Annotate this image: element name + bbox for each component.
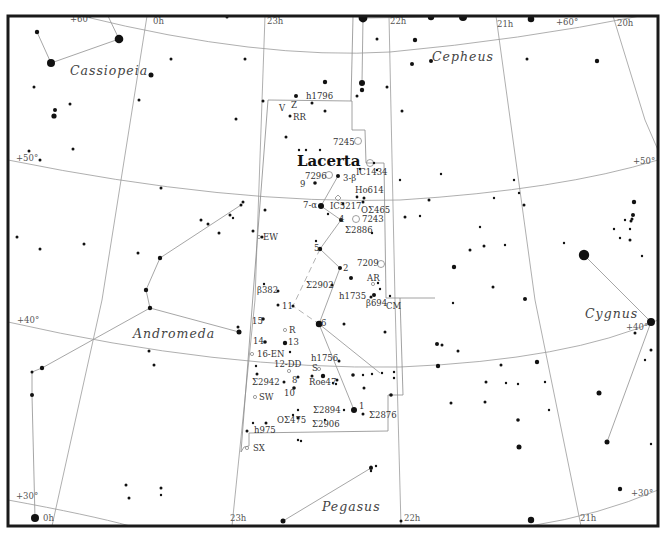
object-label: V	[278, 103, 286, 113]
star-marker	[484, 401, 487, 404]
star-marker	[613, 228, 615, 230]
star-marker	[51, 113, 56, 118]
star-marker	[544, 381, 546, 383]
star-marker	[351, 407, 357, 413]
star-marker	[505, 382, 507, 384]
star-marker	[338, 266, 342, 270]
star-marker	[650, 443, 652, 445]
object-label: Ho614	[355, 185, 384, 195]
star-marker	[632, 200, 636, 204]
constellation-name: Andromeda	[132, 326, 215, 341]
star-marker	[318, 203, 324, 209]
star-marker	[235, 118, 238, 121]
star-chart: h1796VZRR7245IC143472963-β9Ho6147-αIC521…	[0, 0, 666, 535]
dec-label: +30°	[16, 491, 38, 501]
star-marker	[35, 30, 39, 34]
star-marker	[207, 223, 210, 226]
star-marker	[469, 249, 472, 252]
object-label: 6	[321, 318, 326, 328]
dec-label: +40°	[626, 322, 648, 332]
object-label: 10	[284, 388, 295, 398]
star-marker	[305, 149, 307, 151]
star-marker	[404, 216, 407, 219]
star-marker	[242, 201, 245, 204]
star-marker	[39, 159, 42, 162]
star-marker	[363, 197, 366, 200]
dec-label: +50°	[16, 153, 38, 163]
star-marker	[252, 422, 254, 424]
star-marker	[440, 173, 442, 175]
star-marker	[362, 413, 365, 416]
star-marker	[630, 220, 633, 223]
object-label: h1735	[339, 291, 366, 301]
star-marker	[450, 402, 453, 405]
star-marker	[579, 250, 589, 260]
star-marker	[349, 276, 353, 280]
ra-label: 21h	[497, 19, 514, 29]
star-marker	[158, 256, 162, 260]
star-marker	[319, 149, 321, 151]
object-label: Roe47	[309, 377, 336, 387]
star-marker	[435, 342, 439, 346]
star-marker	[362, 374, 364, 376]
object-label: 4	[339, 214, 344, 224]
star-marker	[504, 244, 506, 246]
star-marker	[237, 330, 242, 335]
star-marker	[160, 187, 163, 190]
star-marker	[605, 440, 610, 445]
star-marker	[315, 240, 317, 242]
star-marker	[281, 519, 286, 524]
star-marker	[479, 226, 481, 228]
object-label: 5	[314, 243, 319, 253]
constellation-name: Cygnus	[585, 306, 638, 321]
star-marker	[381, 372, 383, 374]
star-marker	[452, 265, 456, 269]
star-marker	[641, 255, 643, 257]
star-marker	[528, 517, 534, 523]
object-label: SX	[253, 443, 266, 453]
star-marker	[517, 445, 522, 450]
object-label: CM	[386, 301, 402, 311]
star-marker	[436, 364, 440, 368]
star-marker	[277, 304, 280, 307]
star-marker	[47, 59, 55, 67]
star-marker	[379, 288, 381, 290]
star-marker	[372, 293, 376, 297]
star-marker	[264, 209, 267, 212]
star-marker	[39, 248, 42, 251]
ra-label: 21h	[580, 513, 597, 523]
star-marker	[513, 179, 515, 181]
object-label: 7296	[305, 171, 327, 181]
star-marker	[336, 174, 340, 178]
object-label: h975	[254, 425, 276, 435]
star-marker	[144, 288, 148, 292]
star-marker	[125, 484, 128, 487]
star-marker	[289, 115, 292, 118]
star-marker	[351, 373, 355, 377]
star-marker	[160, 494, 162, 496]
star-marker	[262, 100, 265, 103]
star-marker	[360, 88, 364, 92]
star-marker	[419, 215, 421, 217]
star-marker	[650, 349, 653, 352]
object-label: 15	[252, 316, 263, 326]
star-marker	[170, 58, 173, 61]
star-marker	[631, 213, 635, 217]
star-marker	[128, 497, 131, 500]
star-marker	[294, 94, 298, 98]
object-label: Σ2906	[312, 419, 340, 429]
star-marker	[371, 373, 373, 375]
star-marker	[30, 393, 34, 397]
star-marker	[492, 286, 495, 289]
star-marker	[393, 377, 395, 379]
star-marker	[493, 197, 495, 199]
object-label: h1756	[311, 353, 338, 363]
star-marker	[244, 58, 247, 61]
star-marker	[297, 439, 299, 441]
object-label: R	[289, 325, 296, 335]
star-marker	[624, 219, 626, 221]
star-marker	[389, 393, 393, 397]
star-marker	[526, 58, 529, 61]
star-marker	[327, 213, 329, 215]
star-marker	[452, 302, 454, 304]
